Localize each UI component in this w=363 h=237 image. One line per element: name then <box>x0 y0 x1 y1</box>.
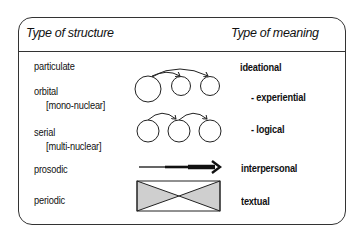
hourglass-rectangle-icon <box>137 181 220 211</box>
thickening-arrow-icon <box>139 161 220 173</box>
diagrams <box>0 0 363 237</box>
nucleus-satellite-arcs-icon <box>135 69 220 102</box>
chained-circles-arcs-icon <box>137 113 221 142</box>
